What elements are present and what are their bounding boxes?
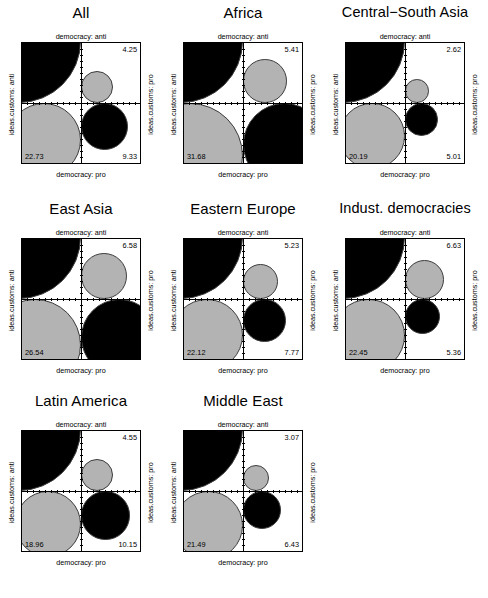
cell-value-bottom-left: 22.73 [25, 152, 44, 161]
axis-tick [27, 298, 28, 301]
axis-label-top: democracy: anti [162, 32, 324, 41]
axis-tick [404, 347, 407, 348]
plot-area: 64.885.2322.127.77 [184, 239, 302, 359]
axis-tick [111, 490, 112, 493]
axis-tick [231, 102, 232, 105]
cell-value-top-right: 6.58 [123, 241, 137, 250]
axis-tick [80, 61, 83, 62]
axis-tick [57, 298, 58, 301]
plot-frame: 72.172.6220.195.01 [345, 42, 465, 164]
axis-tick [87, 298, 88, 301]
axis-label-left-text: ideas.customs: anti [170, 461, 179, 523]
axis-tick [63, 102, 64, 105]
axis-tick [111, 298, 112, 301]
axis-tick [33, 298, 34, 301]
axis-tick [417, 102, 418, 105]
axis-tick [80, 275, 83, 276]
cell-value-bottom-right: 5.01 [447, 152, 461, 161]
axis-tick [273, 102, 274, 105]
axis-label-right-text: ideas.customs: pro [146, 462, 155, 522]
cell-value-bottom-right: 9.33 [123, 152, 137, 161]
axis-tick [237, 490, 238, 493]
axis-tick [51, 102, 52, 105]
axis-tick [387, 102, 388, 105]
axis-tick [80, 311, 83, 312]
axis-tick [93, 490, 94, 493]
axis-tick [381, 298, 382, 301]
fourfold-panel: Indust. democraciesdemocracy: antidemocr… [324, 196, 486, 392]
axis-tick [201, 490, 202, 493]
axis-tick [242, 545, 245, 546]
axis-label-left: ideas.customs: anti [168, 44, 180, 164]
axis-tick [231, 298, 232, 301]
axis-tick [80, 257, 83, 258]
axis-tick [201, 298, 202, 301]
axis-tick [404, 79, 407, 80]
axis-tick [404, 145, 407, 146]
panel-title: East Asia [0, 200, 162, 217]
axis-tick [80, 67, 83, 68]
axis-tick [423, 102, 424, 105]
axis-tick [242, 311, 245, 312]
cell-value-top-left: 66.34 [25, 433, 44, 442]
axis-tick [219, 102, 220, 105]
cell-value-bottom-left: 22.45 [349, 348, 368, 357]
axis-tick [207, 102, 208, 105]
plot-frame: 65.566.6322.455.36 [345, 238, 465, 360]
axis-tick [80, 293, 83, 294]
axis-tick [261, 490, 262, 493]
axis-label-left: ideas.customs: anti [330, 240, 342, 360]
axis-tick [242, 539, 245, 540]
axis-tick [99, 102, 100, 105]
cell-value-bottom-right: 10.15 [119, 540, 138, 549]
axis-tick [189, 102, 190, 105]
axis-tick [80, 437, 83, 438]
fourfold-panel: Central−South Asiademocracy: antidemocra… [324, 0, 486, 196]
axis-tick [242, 485, 245, 486]
axis-tick [357, 102, 358, 105]
axis-tick [80, 353, 83, 354]
axis-tick [80, 527, 83, 528]
cell-value-top-right: 2.62 [447, 45, 461, 54]
axis-tick [213, 298, 214, 301]
axis-tick [447, 298, 448, 301]
axis-tick [80, 151, 83, 152]
axis-tick [231, 490, 232, 493]
plot-area: 43.435.4131.6819.47 [184, 43, 302, 163]
axis-tick [242, 341, 245, 342]
axis-tick [242, 275, 245, 276]
axis-tick [135, 490, 136, 493]
axis-label-right-text: ideas.customs: pro [470, 74, 479, 134]
axis-tick [242, 509, 245, 510]
axis-label-left-text: ideas.customs: anti [170, 73, 179, 135]
cell-value-top-right: 3.07 [285, 433, 299, 442]
axis-tick [404, 127, 407, 128]
axis-tick [404, 335, 407, 336]
axis-tick [404, 281, 407, 282]
axis-tick [381, 102, 382, 105]
axis-tick [297, 102, 298, 105]
axis-label-right: ideas.customs: pro [306, 432, 318, 552]
cell-value-top-right: 5.41 [285, 45, 299, 54]
axis-tick [242, 329, 245, 330]
axis-tick [80, 97, 83, 98]
axis-tick [255, 490, 256, 493]
axis-tick [135, 298, 136, 301]
fourfold-panel: Middle Eastdemocracy: antidemocracy: pro… [162, 388, 324, 584]
axis-label-left: ideas.customs: anti [330, 44, 342, 164]
axis-label-top: democracy: anti [162, 228, 324, 237]
axis-tick [75, 102, 76, 105]
axis-tick [80, 139, 83, 140]
axis-tick [237, 102, 238, 105]
axis-tick [261, 102, 262, 105]
axis-tick [242, 521, 245, 522]
cell-value-top-right: 4.55 [123, 433, 137, 442]
axis-tick [261, 298, 262, 301]
axis-tick [237, 298, 238, 301]
axis-tick [80, 157, 83, 158]
panel-title: Central−South Asia [324, 4, 486, 20]
axis-tick [242, 515, 245, 516]
axis-tick [27, 490, 28, 493]
axis-label-bottom: democracy: pro [162, 558, 324, 567]
axis-tick [459, 102, 460, 105]
